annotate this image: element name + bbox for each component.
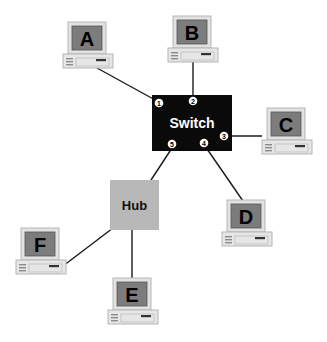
floppy-slot — [96, 59, 106, 61]
port-number: 1 — [157, 100, 161, 107]
computer-label: C — [279, 114, 293, 136]
vent — [265, 150, 272, 151]
floppy-slot — [201, 53, 211, 55]
switch-port-5: 5 — [168, 140, 177, 149]
switch-port-2: 2 — [189, 97, 198, 106]
floppy-slot — [141, 315, 151, 317]
vent — [225, 236, 232, 237]
vent — [171, 55, 178, 56]
hub-label: Hub — [122, 198, 147, 213]
vent — [171, 52, 178, 53]
computer-b[interactable]: B — [168, 16, 218, 62]
computer-e[interactable]: E — [108, 278, 158, 324]
network-diagram: Switch12345HubABCDFE — [0, 0, 327, 342]
computer-d[interactable]: D — [222, 200, 272, 246]
link-f-hub — [63, 228, 113, 266]
vent — [111, 317, 118, 318]
switch-port-4: 4 — [200, 139, 209, 148]
vent — [111, 320, 118, 321]
computer-label: D — [239, 206, 253, 228]
computer-f[interactable]: F — [16, 228, 66, 274]
floppy-slot — [49, 265, 59, 267]
switch[interactable]: Switch12345 — [152, 95, 232, 151]
vent — [225, 239, 232, 240]
computer-label: B — [185, 22, 199, 44]
port-number: 2 — [191, 98, 195, 105]
port-number: 5 — [170, 141, 174, 148]
vent — [19, 270, 26, 271]
computer-label: E — [125, 284, 138, 306]
vent — [19, 267, 26, 268]
vent — [66, 58, 73, 59]
switch-label: Switch — [169, 115, 214, 131]
switch-port-1: 1 — [155, 99, 164, 108]
vent — [19, 264, 26, 265]
computer-c[interactable]: C — [262, 108, 312, 154]
vent — [265, 144, 272, 145]
hub[interactable]: Hub — [110, 180, 159, 230]
port-number: 4 — [202, 140, 206, 147]
computer-a[interactable]: A — [63, 22, 113, 68]
floppy-slot — [295, 145, 305, 147]
vent — [66, 64, 73, 65]
floppy-slot — [255, 237, 265, 239]
link-hub-switch-port-5 — [151, 148, 172, 180]
port-number: 3 — [222, 133, 226, 140]
vent — [225, 242, 232, 243]
computer-label: A — [80, 28, 94, 50]
vent — [265, 147, 272, 148]
link-d-switch-port-4 — [205, 146, 243, 201]
computer-label: F — [34, 234, 46, 256]
link-a-switch-port-1 — [97, 68, 157, 101]
vent — [171, 58, 178, 59]
vent — [111, 314, 118, 315]
switch-port-3: 3 — [220, 132, 229, 141]
vent — [66, 61, 73, 62]
